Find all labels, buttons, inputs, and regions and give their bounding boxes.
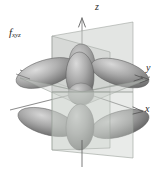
x-axis-label: x [145, 104, 149, 114]
nodal-planes-front [52, 92, 133, 158]
orbital-subscript: xyz [12, 31, 20, 38]
orbital-figure: fxyz z y x [0, 0, 163, 169]
orbital-label: fxyz [9, 27, 21, 39]
nodal-plane-zx-front [52, 92, 110, 150]
y-axis-label: y [146, 63, 150, 73]
z-axis-label: z [95, 2, 99, 12]
orbital-diagram-svg [0, 0, 163, 169]
